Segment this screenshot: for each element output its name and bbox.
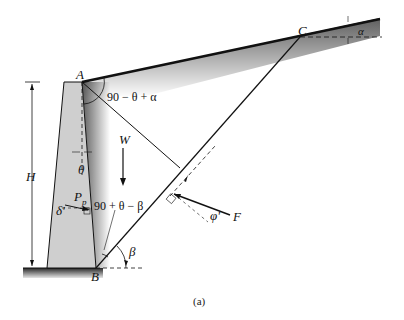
weight-label: W <box>119 133 130 146</box>
soil-friction-label: φ' <box>210 209 220 222</box>
wall-angle-label: θ <box>78 163 84 176</box>
reaction-arrow <box>174 194 230 215</box>
point-a-label: A <box>76 68 84 81</box>
point-c-label: C <box>298 24 307 37</box>
failure-angle-label: β <box>129 245 135 258</box>
angle-top-label: 90 − θ + α <box>107 91 157 103</box>
wall-friction-label: δ' <box>56 204 65 217</box>
height-label: H <box>26 170 35 183</box>
backfill-surface <box>82 18 380 98</box>
reaction-label: F <box>233 210 241 223</box>
backfill-slope-label: α <box>358 26 364 37</box>
angle-bottom-label: 90 + θ − β <box>94 200 143 212</box>
passive-force-label: Pp <box>74 190 86 207</box>
point-b-label: B <box>91 270 99 283</box>
figure-caption: (a) <box>193 295 205 307</box>
passive-pressure-wedge-diagram <box>0 0 404 320</box>
